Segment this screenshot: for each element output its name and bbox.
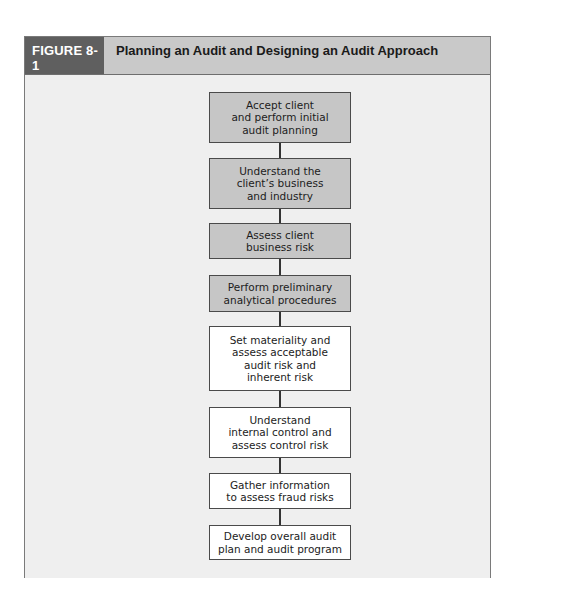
flow-step-fraud-risks: Gather information to assess fraud risks — [209, 473, 351, 509]
flow-step-accept-client: Accept client and perform initial audit … — [209, 92, 351, 143]
flow-connector — [279, 209, 281, 223]
flow-connector — [279, 312, 281, 326]
figure-frame: FIGURE 8-1 Planning an Audit and Designi… — [24, 36, 491, 578]
flow-step-understand-business: Understand the client’s business and ind… — [209, 158, 351, 209]
flow-connector — [279, 143, 281, 158]
flow-step-label: Develop overall audit plan and audit pro… — [218, 530, 342, 555]
flow-connector — [279, 509, 281, 525]
flow-step-set-materiality: Set materiality and assess acceptable au… — [209, 326, 351, 391]
flow-step-label: Understand internal control and assess c… — [228, 414, 331, 452]
flow-step-assess-business-risk: Assess client business risk — [209, 223, 351, 259]
figure-title: Planning an Audit and Designing an Audit… — [116, 43, 438, 58]
flow-step-label: Perform preliminary analytical procedure… — [224, 281, 337, 306]
flow-step-label: Assess client business risk — [246, 229, 314, 254]
flow-connector — [279, 458, 281, 473]
flow-step-internal-control: Understand internal control and assess c… — [209, 407, 351, 458]
figure-header: FIGURE 8-1 Planning an Audit and Designi… — [25, 37, 490, 75]
flow-step-preliminary-analytics: Perform preliminary analytical procedure… — [209, 275, 351, 312]
flow-step-label: Gather information to assess fraud risks — [226, 479, 333, 504]
flow-step-label: Understand the client’s business and ind… — [237, 165, 324, 203]
flow-step-audit-plan: Develop overall audit plan and audit pro… — [209, 525, 351, 560]
flow-step-label: Set materiality and assess acceptable au… — [230, 334, 331, 384]
figure-label: FIGURE 8-1 — [25, 37, 104, 74]
flow-connector — [279, 259, 281, 275]
flowchart-area: Accept client and perform initial audit … — [25, 75, 490, 578]
flow-step-label: Accept client and perform initial audit … — [231, 99, 328, 137]
flow-connector — [279, 391, 281, 407]
